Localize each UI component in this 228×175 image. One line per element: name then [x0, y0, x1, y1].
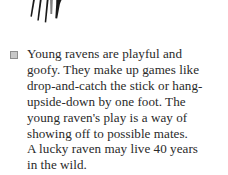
square-bullet-icon — [10, 51, 18, 59]
page-canvas: Young ravens are playful and goofy. They… — [0, 0, 228, 175]
raven-fact-block: Young ravens are playful and goofy. They… — [0, 46, 228, 173]
list-item: Young ravens are playful and goofy. They… — [0, 46, 228, 173]
raven-fact-text: Young ravens are playful and goofy. They… — [27, 46, 228, 173]
raven-talons-illustration — [26, 0, 74, 34]
bullet-cell — [0, 46, 27, 59]
